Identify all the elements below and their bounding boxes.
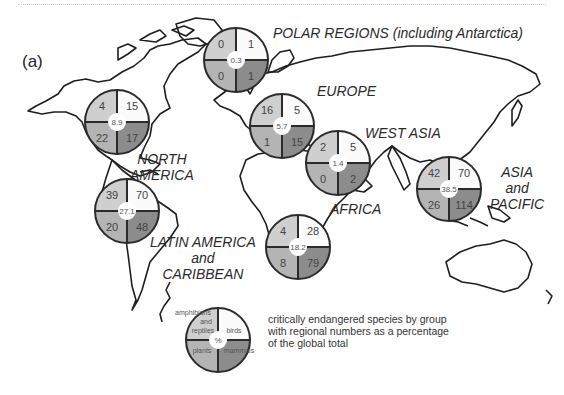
pie-europe: 16 5 1 15 5.7 — [250, 94, 314, 158]
value-percent-global: 0.3 — [230, 56, 242, 65]
value-mammals: 17 — [126, 132, 138, 144]
value-amphibians-reptiles: 0 — [218, 38, 224, 50]
value-plants: 26 — [428, 199, 440, 211]
value-amphibians-reptiles: 39 — [106, 189, 118, 201]
value-percent-global: 8.9 — [111, 118, 123, 127]
pie-polar-regions: 0 1 0 1 0.3 — [204, 28, 268, 92]
pie-asia-pacific: 42 70 26 114 38.5 — [417, 157, 481, 221]
value-amphibians-reptiles: 4 — [99, 100, 105, 112]
pie-africa: 4 28 8 79 18.2 — [266, 215, 330, 279]
label-west-asia: WEST ASIA — [365, 125, 441, 141]
legend-amphibians-line1: amphibians — [175, 309, 211, 317]
value-birds: 5 — [294, 104, 300, 116]
label-latin-america-caribbean: LATIN AMERICAandCARIBBEAN — [150, 234, 256, 282]
value-birds: 28 — [307, 225, 319, 237]
value-percent-global: 1.4 — [332, 159, 344, 168]
pie-north-america: 4 15 22 17 8.9 — [85, 90, 149, 154]
value-plants: 0 — [218, 70, 224, 82]
value-mammals: 1 — [248, 70, 254, 82]
legend-amphibians-line2: and — [200, 318, 212, 325]
value-percent-global: 38.5 — [441, 185, 457, 194]
value-plants: 0 — [320, 173, 326, 185]
legend-caption: critically endangered species by group w… — [268, 313, 449, 349]
value-amphibians-reptiles: 4 — [280, 225, 286, 237]
value-birds: 70 — [136, 189, 148, 201]
value-birds: 15 — [126, 100, 138, 112]
value-mammals: 79 — [307, 257, 319, 269]
label-europe: EUROPE — [317, 83, 376, 99]
value-amphibians-reptiles: 16 — [261, 104, 273, 116]
legend-center-percent: % — [214, 336, 221, 345]
value-birds: 1 — [248, 38, 254, 50]
legend-mammals: mammals — [224, 347, 255, 354]
value-plants: 8 — [280, 257, 286, 269]
value-mammals: 15 — [291, 136, 303, 148]
value-birds: 5 — [350, 141, 356, 153]
value-birds: 70 — [458, 167, 470, 179]
label-africa: AFRICA — [330, 201, 381, 217]
value-percent-global: 27.1 — [119, 207, 135, 216]
value-mammals: 114 — [455, 199, 473, 211]
value-amphibians-reptiles: 2 — [320, 141, 326, 153]
label-polar-regions: POLAR REGIONS (including Antarctica) — [273, 25, 523, 41]
legend-pie: amphibians and reptiles birds plants mam… — [175, 308, 255, 372]
value-percent-global: 5.7 — [276, 122, 288, 131]
legend-plants: plants — [193, 347, 212, 355]
value-mammals: 2 — [350, 173, 356, 185]
value-plants: 22 — [96, 132, 108, 144]
pie-west-asia: 2 5 0 2 1.4 — [306, 131, 370, 195]
value-amphibians-reptiles: 42 — [428, 167, 440, 179]
value-plants: 1 — [264, 136, 270, 148]
legend-amphibians-line3: reptiles — [192, 327, 215, 335]
label-north-america: NORTHAMERICA — [130, 151, 194, 183]
value-plants: 20 — [106, 221, 118, 233]
legend-birds: birds — [226, 327, 242, 334]
value-percent-global: 18.2 — [290, 243, 306, 252]
value-mammals: 48 — [136, 221, 148, 233]
label-asia-pacific: ASIAandPACIFIC — [490, 164, 544, 212]
